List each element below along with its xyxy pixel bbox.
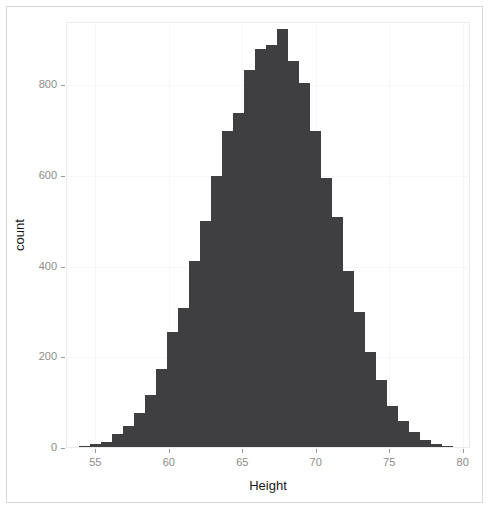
histogram-bar bbox=[387, 406, 398, 448]
histogram-bar bbox=[244, 70, 255, 448]
histogram-bar bbox=[112, 434, 123, 448]
histogram-bar bbox=[420, 440, 431, 448]
histogram-bar bbox=[222, 131, 233, 448]
histogram-bar bbox=[288, 61, 299, 448]
histogram-bar bbox=[343, 271, 354, 448]
histogram-bar bbox=[211, 176, 222, 448]
histogram-bar bbox=[277, 29, 288, 448]
y-axis-tick-mark bbox=[61, 85, 65, 86]
y-axis-tick-mark bbox=[61, 448, 65, 449]
x-axis-tick-mark bbox=[242, 449, 243, 453]
histogram-bar bbox=[90, 444, 101, 448]
histogram-bar bbox=[431, 444, 442, 448]
histogram-figure: 0200400600800 count 556065707580 Height bbox=[0, 0, 489, 515]
histogram-bar bbox=[453, 447, 464, 448]
histogram-bar bbox=[123, 426, 134, 448]
y-axis-tick-mark bbox=[61, 267, 65, 268]
histogram-bar bbox=[178, 308, 189, 448]
y-axis-tick-label: 200 bbox=[39, 351, 57, 362]
x-axis-title: Height bbox=[66, 478, 470, 493]
x-axis-tick-mark bbox=[389, 449, 390, 453]
x-axis-tick-label: 80 bbox=[457, 457, 469, 468]
gridline-vertical bbox=[463, 22, 464, 448]
y-axis-tick-label: 0 bbox=[51, 442, 57, 453]
x-axis-tick-mark bbox=[169, 449, 170, 453]
histogram-bar bbox=[200, 221, 211, 448]
x-axis-tick-label: 55 bbox=[89, 457, 101, 468]
histogram-bar bbox=[134, 413, 145, 448]
y-axis-title: count bbox=[12, 219, 27, 251]
histogram-bar bbox=[310, 131, 321, 448]
histogram-bar bbox=[79, 446, 90, 448]
histogram-bar bbox=[167, 332, 178, 448]
y-axis-tick-label: 600 bbox=[39, 170, 57, 181]
histogram-bar bbox=[266, 45, 277, 448]
histogram-bar bbox=[321, 178, 332, 448]
histogram-bar bbox=[299, 83, 310, 448]
histogram-bar bbox=[376, 380, 387, 448]
gridline-vertical bbox=[389, 22, 390, 448]
x-axis-tick-mark bbox=[95, 449, 96, 453]
histogram-bar bbox=[442, 446, 453, 448]
gridline-vertical bbox=[95, 22, 96, 448]
histogram-bar bbox=[255, 49, 266, 448]
histogram-bar bbox=[365, 352, 376, 448]
x-axis-tick-label: 70 bbox=[310, 457, 322, 468]
x-axis-tick-label: 60 bbox=[163, 457, 175, 468]
x-axis-tick-label: 75 bbox=[383, 457, 395, 468]
histogram-bar bbox=[409, 432, 420, 448]
histogram-bar bbox=[189, 261, 200, 448]
plot-panel bbox=[66, 22, 470, 448]
histogram-bar bbox=[156, 369, 167, 448]
histogram-bar bbox=[233, 113, 244, 448]
y-axis-tick-mark bbox=[61, 176, 65, 177]
histogram-bar bbox=[398, 421, 409, 448]
y-axis-tick-label: 800 bbox=[39, 79, 57, 90]
histogram-bar bbox=[332, 217, 343, 448]
histogram-bar bbox=[354, 312, 365, 448]
x-axis-tick-mark bbox=[463, 449, 464, 453]
histogram-bar bbox=[101, 442, 112, 448]
x-axis-tick-label: 65 bbox=[236, 457, 248, 468]
x-axis-tick-mark bbox=[316, 449, 317, 453]
histogram-bar bbox=[145, 395, 156, 448]
y-axis-tick-label: 400 bbox=[39, 261, 57, 272]
y-axis-tick-mark bbox=[61, 357, 65, 358]
